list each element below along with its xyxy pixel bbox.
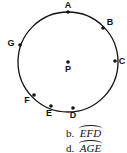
point-f xyxy=(32,93,36,97)
label-f: F xyxy=(24,95,30,105)
label-a: A xyxy=(65,0,72,10)
option-d: d. AGE xyxy=(66,142,101,153)
option-d-letter: d. xyxy=(66,142,74,153)
point-b xyxy=(101,26,105,30)
label-d: D xyxy=(70,110,77,120)
circle-diagram: ABCDEFGP xyxy=(0,0,127,153)
label-g: G xyxy=(7,38,14,48)
option-b-letter: b. xyxy=(66,127,74,139)
option-b-arc: EFD xyxy=(80,127,101,139)
option-b: b. EFD xyxy=(66,127,101,139)
option-d-arc: AGE xyxy=(80,142,101,153)
label-c: C xyxy=(119,56,126,66)
point-c xyxy=(113,59,117,63)
point-g xyxy=(18,43,22,47)
label-b: B xyxy=(107,17,114,27)
point-a xyxy=(66,10,70,14)
label-p: P xyxy=(65,64,71,74)
label-e: E xyxy=(46,108,52,118)
